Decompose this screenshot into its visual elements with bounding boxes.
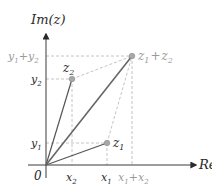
tick-x1: x1 bbox=[101, 171, 112, 186]
tick-y2: y2 bbox=[30, 73, 42, 88]
x-axis-label: Re(z) bbox=[198, 157, 212, 172]
tick-x2: x2 bbox=[66, 171, 77, 186]
label-z1: z1 bbox=[112, 136, 124, 152]
tick-x1x2: x1+x2 bbox=[118, 171, 149, 186]
label-sum: z1+z2 bbox=[137, 49, 173, 65]
origin-label: 0 bbox=[34, 169, 42, 183]
point-z1 bbox=[104, 140, 110, 146]
y-axis-label: Im(z) bbox=[30, 12, 65, 27]
point-sum bbox=[129, 53, 135, 59]
vector-z2 bbox=[46, 79, 72, 165]
complex-addition-diagram: Im(z) Re(z) 0 z2 z1 z1+z2 y1+y2 y2 y1 x2… bbox=[0, 0, 212, 191]
label-z2: z2 bbox=[62, 61, 74, 77]
point-z2 bbox=[69, 76, 75, 82]
tick-y1: y1 bbox=[30, 137, 42, 152]
parallelogram-edge-z1-sum bbox=[107, 56, 132, 143]
tick-y1y2: y1+y2 bbox=[7, 50, 39, 65]
